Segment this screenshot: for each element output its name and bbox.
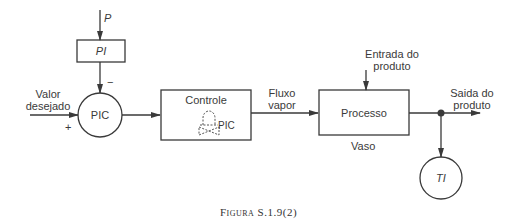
plus-sign: +: [65, 121, 71, 133]
branch-point: [438, 110, 445, 117]
inlet-label-line2: produto: [361, 60, 423, 72]
pi-label: PI: [77, 45, 125, 57]
ti-label: TI: [420, 172, 462, 184]
steam-label-line2: vapor: [262, 99, 302, 111]
setpoint-label-line2: desejado: [22, 100, 74, 112]
pic-label: PIC: [78, 109, 122, 121]
valve-tag-label: PIC: [218, 120, 235, 132]
outlet-label-line1: Saida do: [446, 87, 498, 99]
controle-label: Controle: [161, 94, 251, 106]
steam-label-line1: Fluxo: [262, 87, 302, 99]
control-valve-icon: [199, 111, 219, 135]
p-label: P: [104, 12, 111, 24]
outlet-label-line2: produto: [446, 99, 498, 111]
setpoint-label-line1: Valor: [22, 88, 74, 100]
minus-sign: −: [107, 76, 113, 88]
vaso-label: Vaso: [351, 140, 375, 152]
figure-caption: Figura S.1.9(2): [0, 206, 517, 218]
processo-label: Processo: [319, 107, 409, 119]
inlet-label-line1: Entrada do: [361, 48, 423, 60]
